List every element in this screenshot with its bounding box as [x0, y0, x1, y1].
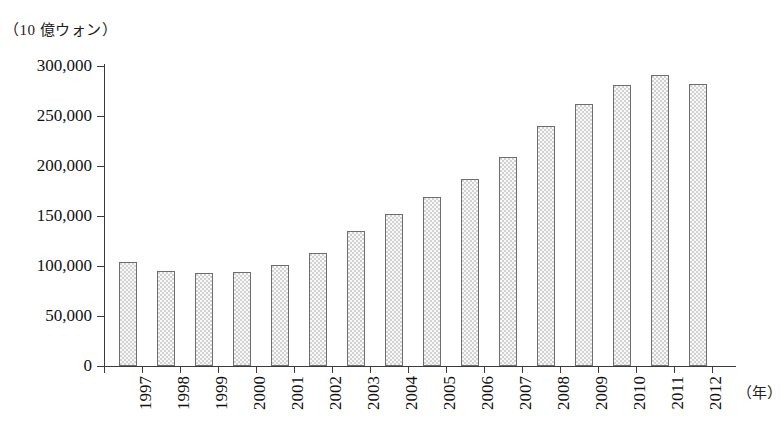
bar [309, 253, 327, 366]
x-axis-tick-label: 1999 [212, 376, 232, 410]
x-axis-tick [142, 366, 143, 373]
x-axis-tick [712, 366, 713, 373]
x-axis-tick-label: 2011 [668, 376, 688, 409]
bar [233, 272, 251, 366]
bar [575, 104, 593, 366]
x-axis-tick-label: 2000 [250, 376, 270, 410]
bar [385, 214, 403, 366]
x-axis-tick-label: 2010 [630, 376, 650, 410]
bar [613, 85, 631, 366]
bar [119, 262, 137, 366]
x-axis-tick [522, 366, 523, 373]
bar [651, 75, 669, 366]
x-axis-tick-label: 2009 [592, 376, 612, 410]
x-axis-tick [636, 366, 637, 373]
x-axis-tick-label: 2006 [478, 376, 498, 410]
x-axis-tick-label: 2005 [440, 376, 460, 410]
bar [347, 231, 365, 366]
x-axis-tick [294, 366, 295, 373]
y-axis-tick [97, 66, 104, 67]
x-axis-tick-label: 2004 [402, 376, 422, 410]
y-axis-tick-label: 100,000 [0, 256, 92, 276]
x-axis-tick [408, 366, 409, 373]
x-axis-tick-label: 2008 [554, 376, 574, 410]
x-axis-tick [104, 366, 105, 373]
x-axis-tick-label: 2001 [288, 376, 308, 410]
bar [423, 197, 441, 366]
y-axis-tick [97, 216, 104, 217]
x-axis-line [104, 366, 736, 367]
clipped-title-strip [0, 0, 781, 5]
plot-area [104, 66, 735, 366]
x-axis-tick-label: 1997 [136, 376, 156, 410]
bar [537, 126, 555, 366]
x-axis-tick-label: 2007 [516, 376, 536, 410]
y-axis-tick-label: 0 [0, 356, 92, 376]
bar [461, 179, 479, 366]
x-axis-tick [446, 366, 447, 373]
x-axis-tick [674, 366, 675, 373]
x-axis-tick [484, 366, 485, 373]
x-axis-tick-label: 2012 [706, 376, 726, 410]
y-axis-tick-label: 300,000 [0, 56, 92, 76]
y-axis-unit-label: （10 億ウォン） [4, 18, 117, 39]
x-axis-tick-label: 2002 [326, 376, 346, 410]
x-axis-tick [218, 366, 219, 373]
x-axis-tick-label: 1998 [174, 376, 194, 410]
chart-figure: （10 億ウォン） 050,000100,000150,000200,00025… [0, 0, 781, 441]
x-axis-title: （年） [737, 381, 781, 402]
bar [195, 273, 213, 366]
y-axis-tick-label: 200,000 [0, 156, 92, 176]
x-axis-tick [370, 366, 371, 373]
y-axis-tick [97, 366, 104, 367]
bar [271, 265, 289, 366]
bar [689, 84, 707, 366]
y-axis-tick [97, 166, 104, 167]
x-axis-tick [180, 366, 181, 373]
y-axis-tick [97, 266, 104, 267]
x-axis-tick-label: 2003 [364, 376, 384, 410]
y-axis-tick [97, 316, 104, 317]
x-axis-tick [256, 366, 257, 373]
y-axis-tick-label: 250,000 [0, 106, 92, 126]
y-axis-tick-label: 50,000 [0, 306, 92, 326]
x-axis-tick [598, 366, 599, 373]
x-axis-tick [560, 366, 561, 373]
y-axis-tick [97, 116, 104, 117]
x-axis-tick [332, 366, 333, 373]
bar [499, 157, 517, 366]
y-axis-tick-label: 150,000 [0, 206, 92, 226]
bar [157, 271, 175, 366]
